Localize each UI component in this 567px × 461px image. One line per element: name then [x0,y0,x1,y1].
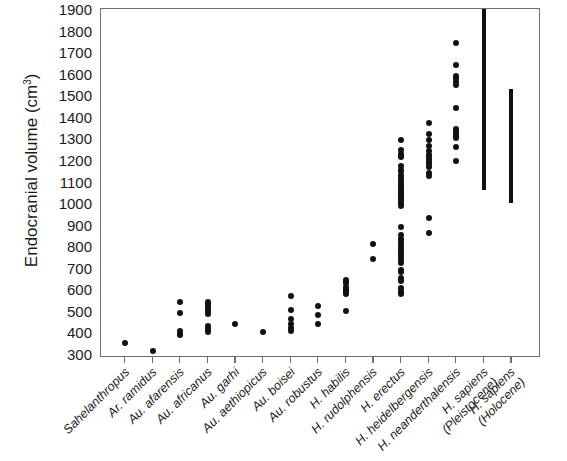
data-point [315,312,321,318]
y-axis-tick-label: 1000 [40,195,92,212]
x-axis-tick-mark [262,357,263,363]
data-point [398,137,404,143]
data-point [398,260,404,266]
y-axis-tick-label: 1500 [40,87,92,104]
y-axis-tick-label: 1800 [40,23,92,40]
data-point [426,215,432,221]
data-point [426,131,432,137]
data-point [343,308,349,314]
x-axis-tick-mark [372,357,373,363]
data-point [453,40,459,46]
y-axis-tick-label: 300 [40,346,92,363]
data-point [453,158,459,164]
x-axis-tick-mark [179,357,180,363]
data-point [232,321,238,327]
data-point [177,331,183,337]
data-point [398,278,404,284]
data-point [453,82,459,88]
data-point [370,241,376,247]
y-axis-tick-label: 1600 [40,66,92,83]
y-axis-tick-label: 1100 [40,174,92,191]
data-point [260,329,266,335]
data-point [453,144,459,150]
data-point [205,329,211,335]
x-axis-tick-mark [152,357,153,363]
data-point [453,62,459,68]
data-point [370,256,376,262]
data-point [315,303,321,309]
y-axis-tick-label: 1700 [40,44,92,61]
data-point [426,230,432,236]
data-point [426,120,432,126]
x-axis-tick-mark [510,357,511,363]
y-axis-tick-label: 400 [40,324,92,341]
data-point [398,290,404,296]
y-axis-title-text: Endocranial volume (cm [22,85,41,267]
y-axis-tick-label: 1300 [40,130,92,147]
x-axis-tick-mark [345,357,346,363]
data-point [453,105,459,111]
y-axis-tick-label: 700 [40,260,92,277]
data-point [315,321,321,327]
y-axis-tick-label: 1900 [40,1,92,18]
data-point [288,293,294,299]
data-point [177,299,183,305]
data-point [288,307,294,313]
y-axis-tick-label: 1200 [40,152,92,169]
y-axis-tick-label: 1400 [40,109,92,126]
data-point [122,340,128,346]
y-axis-tick-label: 500 [40,303,92,320]
plot-area [100,8,540,357]
y-axis-tick-label: 800 [40,238,92,255]
x-axis-tick-mark [455,357,456,363]
y-axis-tick-label: 900 [40,217,92,234]
data-point [398,153,404,159]
data-point [343,290,349,296]
data-point [177,310,183,316]
chart-figure: Endocranial volume (cm3) 300400500600700… [0,0,567,461]
range-bar [509,89,513,203]
x-axis-tick-mark [207,357,208,363]
y-axis-title-exponent: 3 [22,79,33,85]
data-point [398,224,404,230]
data-point [398,203,404,209]
range-bar [482,9,486,190]
data-point [426,173,432,179]
data-point [150,348,156,354]
x-axis-tick-mark [317,357,318,363]
data-point [453,135,459,141]
x-axis-tick-mark [234,357,235,363]
data-point [205,311,211,317]
x-axis-tick-mark [483,357,484,363]
data-point [288,328,294,334]
x-axis-tick-mark [290,357,291,363]
x-axis-tick-mark [400,357,401,363]
y-axis-tick-label: 600 [40,281,92,298]
y-axis-title-tail: ) [22,74,41,80]
x-axis-tick-mark [428,357,429,363]
x-axis-tick-mark [124,357,125,363]
